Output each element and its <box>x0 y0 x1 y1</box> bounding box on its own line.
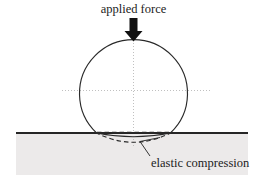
applied-force-label: applied force <box>101 2 167 16</box>
figure-canvas: applied force elastic compression <box>0 0 260 175</box>
elastic-compression-label: elastic compression <box>151 156 250 170</box>
applied-force-arrow <box>125 18 143 42</box>
elastic-compression-figure: applied force elastic compression <box>0 0 260 175</box>
